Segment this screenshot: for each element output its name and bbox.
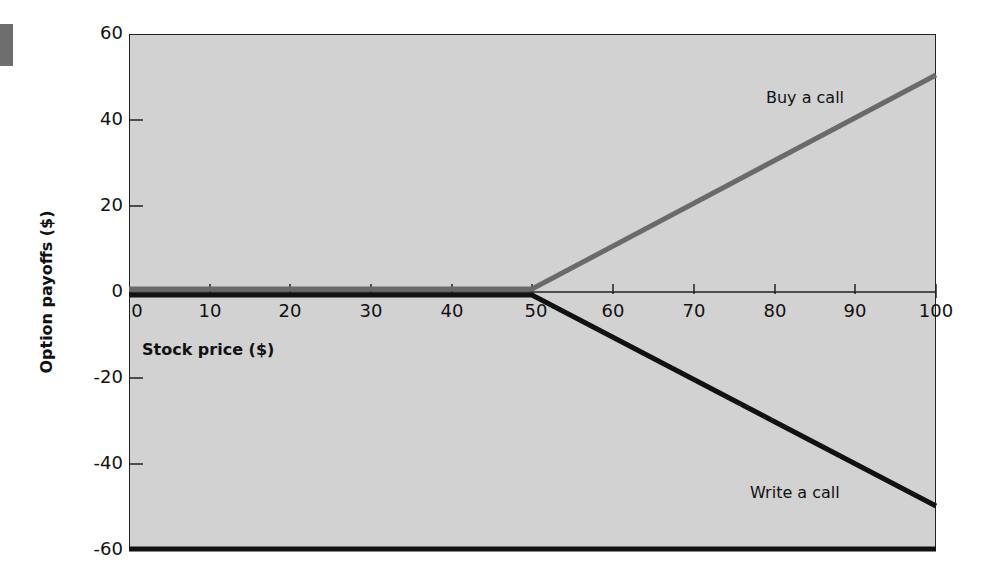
x-tick-label: 70 <box>683 300 706 321</box>
y-tick-label: 20 <box>63 194 123 215</box>
series-buy-a-call <box>129 75 936 289</box>
x-tick-label: 20 <box>279 300 302 321</box>
y-tick-label: 60 <box>63 22 123 43</box>
x-tick-label: 40 <box>441 300 464 321</box>
chart-lines <box>0 0 994 578</box>
x-axis-label: Stock price ($) <box>142 340 274 359</box>
y-tick-label: -40 <box>63 452 123 473</box>
annotation-write-a-call: Write a call <box>750 483 840 502</box>
x-tick-label: 50 <box>525 300 548 321</box>
y-tick-label: 0 <box>63 280 123 301</box>
x-tick-label: 80 <box>764 300 787 321</box>
y-tick-label: -20 <box>63 366 123 387</box>
x-tick-label: 0 <box>131 300 142 321</box>
x-tick-label: 90 <box>844 300 867 321</box>
x-tick-label: 30 <box>360 300 383 321</box>
y-tick-label: 40 <box>63 108 123 129</box>
annotation-buy-a-call: Buy a call <box>766 88 844 107</box>
x-tick-label: 100 <box>919 300 953 321</box>
y-axis-label: Option payoffs ($) <box>37 210 56 373</box>
x-tick-label: 10 <box>199 300 222 321</box>
x-tick-label: 60 <box>602 300 625 321</box>
series-write-a-call <box>129 295 936 506</box>
y-tick-label: -60 <box>63 538 123 559</box>
